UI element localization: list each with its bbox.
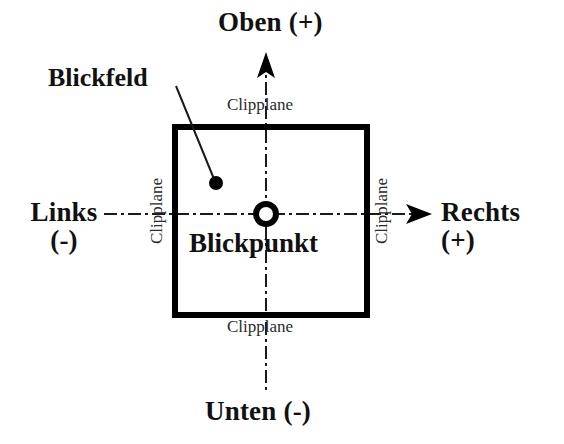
arrow-up-icon xyxy=(257,52,275,78)
blickfeld-label: Blickfeld xyxy=(48,64,148,91)
blickpunkt-label: Blickpunkt xyxy=(189,229,318,257)
axis-label-up-text: Oben xyxy=(218,7,289,37)
filled-dot-icon xyxy=(209,176,223,190)
axis-label-left-text: Links xyxy=(30,197,97,227)
axis-label-up: Oben (+) xyxy=(218,8,323,36)
axis-label-left: Links (-) xyxy=(18,198,110,255)
axis-label-right-sign: (+) xyxy=(441,226,520,254)
axis-label-right-text: Rechts xyxy=(441,197,520,227)
axis-label-up-sign: (+) xyxy=(289,7,323,37)
axis-label-down: Unten (-) xyxy=(205,397,311,425)
diagram-canvas: Oben (+) Unten (-) Links (-) Rechts (+) … xyxy=(0,0,564,444)
axis-label-left-sign: (-) xyxy=(18,226,110,254)
clipplane-label-bottom: Clipplane xyxy=(227,318,293,336)
clipplane-label-top: Clipplane xyxy=(227,96,293,114)
clipplane-label-right: Clipplane xyxy=(373,161,391,261)
clipplane-label-left: Clipplane xyxy=(148,161,166,261)
axis-label-right: Rechts (+) xyxy=(441,198,520,255)
blickfeld-leader-line xyxy=(176,86,214,179)
